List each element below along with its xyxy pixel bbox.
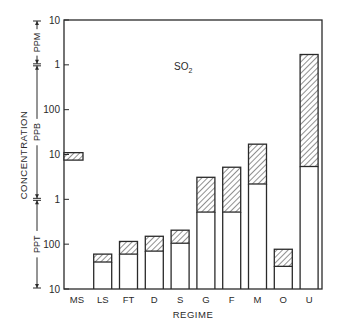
range-bar-d (145, 236, 163, 289)
bracket-ppm: PPM (32, 21, 42, 64)
y-tick-label: 10 (49, 284, 61, 295)
range-box (145, 236, 163, 251)
unit-brackets: PPMPPBPPT (32, 21, 42, 288)
y-tick-label: 100 (43, 239, 60, 250)
y-tick-label: 100 (43, 104, 60, 115)
range-bar-f (223, 167, 241, 289)
range-box (249, 144, 267, 184)
unit-label-ppm: PPM (32, 33, 42, 53)
range-box (223, 167, 241, 212)
x-category-label: F (229, 294, 235, 305)
range-box (274, 249, 292, 266)
y-tick-label: 10 (49, 15, 61, 26)
range-bar-g (197, 177, 215, 289)
range-bar-m (249, 144, 267, 289)
so2-concentration-chart: 10110010110010 MSLSFTDSGFMOU PPMPPBPPT R… (0, 0, 341, 326)
species-formula: SO (174, 61, 189, 72)
x-axis-title: REGIME (173, 309, 213, 320)
range-bar-u (300, 55, 318, 289)
unit-label-ppb: PPB (32, 123, 42, 141)
arrow-down-icon (35, 60, 39, 64)
y-tick-label: 10 (49, 149, 61, 160)
y-tick-label: 1 (54, 59, 60, 70)
range-bar-ls (94, 254, 112, 289)
x-category-label: U (306, 294, 313, 305)
arrow-down-icon (35, 284, 39, 288)
range-bar-ms (64, 153, 83, 160)
arrow-down-icon (35, 194, 39, 198)
range-box (197, 177, 215, 212)
species-subscript: 2 (188, 67, 192, 74)
x-category-label: M (254, 294, 262, 305)
range-box (120, 241, 138, 254)
species-annotation: SO2 (174, 61, 192, 74)
range-box (171, 230, 189, 243)
y-tick-label: 1 (54, 194, 60, 205)
y-axis-title: CONCENTRATION (18, 111, 29, 200)
x-axis-category-labels: MSLSFTDSGFMOU (70, 294, 313, 305)
y-axis-ticks: 10110010110010 (43, 15, 69, 295)
x-category-label: D (151, 294, 158, 305)
unit-label-ppt: PPT (32, 235, 42, 253)
x-category-label: G (202, 294, 209, 305)
x-category-label: O (280, 294, 287, 305)
x-category-label: FT (123, 294, 135, 305)
range-box (94, 254, 112, 262)
arrow-up-icon (35, 200, 39, 204)
x-category-label: LS (97, 294, 109, 305)
arrow-up-icon (35, 66, 39, 70)
range-bar-ft (120, 241, 138, 289)
range-bar-o (274, 249, 292, 289)
range-box (300, 55, 318, 167)
range-box (64, 153, 83, 160)
bracket-ppb: PPB (32, 66, 42, 199)
range-bars (64, 55, 318, 289)
x-category-label: MS (70, 294, 84, 305)
bracket-ppt: PPT (32, 200, 42, 288)
arrow-up-icon (35, 21, 39, 25)
range-bar-s (171, 230, 189, 289)
x-category-label: S (177, 294, 183, 305)
